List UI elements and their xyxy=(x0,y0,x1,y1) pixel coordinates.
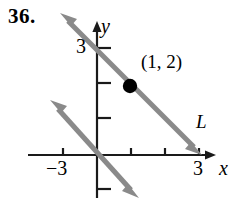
graph-figure: 36. y x L 3 3 −3 (1, 2) xyxy=(0,0,243,198)
x-axis-arrow-icon xyxy=(205,150,216,159)
x-axis-label: x xyxy=(219,158,228,178)
y-tick-label-3: 3 xyxy=(76,36,86,56)
point-coordinate-label: (1, 2) xyxy=(141,52,182,71)
problem-number: 36. xyxy=(8,6,36,27)
coordinate-plane xyxy=(0,0,243,198)
x-tick-label-negative-3: −3 xyxy=(46,158,67,178)
line-label-L: L xyxy=(196,112,207,131)
y-axis-label: y xyxy=(101,16,110,36)
plotted-point xyxy=(123,79,137,93)
parallel-line-shaft xyxy=(58,109,131,190)
x-tick-label-3: 3 xyxy=(193,158,203,178)
